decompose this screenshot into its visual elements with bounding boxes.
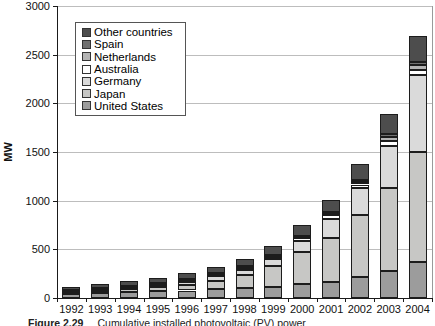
- legend-label: Other countries: [94, 26, 173, 38]
- bar-1997-germany: [207, 276, 225, 280]
- bar-2003-netherlands: [380, 137, 398, 141]
- legend: Other countriesSpainNetherlandsAustralia…: [75, 22, 186, 116]
- legend-item-germany: Germany: [82, 75, 173, 87]
- legend-item-netherlands: Netherlands: [82, 51, 173, 63]
- bar-1999-united-states: [264, 287, 282, 298]
- bar-2001-germany: [322, 219, 340, 238]
- y-tick-label: 0: [0, 292, 50, 304]
- bar-1998-spain: [236, 266, 254, 268]
- bar-2003-australia: [380, 141, 398, 145]
- x-tick: [172, 299, 173, 302]
- bar-1993-other-countries: [91, 284, 109, 288]
- bar-2001-other-countries: [322, 200, 340, 212]
- legend-item-united-states: United States: [82, 100, 173, 112]
- y-tick-label: 1000: [0, 195, 50, 207]
- bar-2003-germany: [380, 146, 398, 188]
- legend-swatch-icon: [82, 101, 91, 110]
- bar-1999-germany: [264, 259, 282, 266]
- x-tick: [317, 299, 318, 302]
- bar-2004-germany: [409, 75, 427, 152]
- x-tick: [288, 299, 289, 302]
- bar-1998-other-countries: [236, 259, 254, 266]
- bar-2000-united-states: [293, 284, 311, 298]
- bar-1997-spain: [207, 273, 225, 275]
- bar-2000-germany: [293, 241, 311, 252]
- legend-item-spain: Spain: [82, 38, 173, 50]
- y-axis-title: MW: [2, 137, 14, 167]
- y-axis-line: [57, 6, 58, 298]
- bar-1997-united-states: [207, 289, 225, 298]
- bar-2003-united-states: [380, 271, 398, 298]
- legend-swatch-icon: [82, 77, 91, 86]
- bar-1995-japan: [149, 287, 167, 291]
- bar-1992-spain: [62, 290, 80, 292]
- bar-2002-germany: [351, 188, 369, 215]
- bar-2000-spain: [293, 236, 311, 238]
- bar-1993-spain: [91, 288, 109, 290]
- figure-caption-label: Figure 2.29: [28, 317, 83, 326]
- x-tick: [201, 299, 202, 302]
- x-tick: [57, 299, 58, 302]
- bar-1992-united-states: [62, 294, 80, 298]
- x-tick: [144, 299, 145, 302]
- gridline-500: [57, 249, 432, 250]
- bar-2003-spain: [380, 134, 398, 137]
- bar-2004-netherlands: [409, 65, 427, 70]
- x-tick: [374, 299, 375, 302]
- legend-item-other-countries: Other countries: [82, 26, 173, 38]
- bar-2004-spain: [409, 62, 427, 66]
- gridline-1000: [57, 201, 432, 202]
- legend-label: Australia: [94, 63, 139, 75]
- legend-label: Germany: [94, 75, 141, 87]
- x-axis-line: [57, 298, 433, 299]
- bar-2001-united-states: [322, 282, 340, 298]
- x-tick-label-2004: 2004: [399, 303, 435, 315]
- figure-caption: Figure 2.29Cumulative installed photovol…: [28, 317, 306, 326]
- y-tick-label: 2500: [0, 49, 50, 61]
- bar-1994-spain: [120, 286, 138, 288]
- bar-2002-japan: [351, 215, 369, 277]
- bar-2002-netherlands: [351, 182, 369, 185]
- legend-swatch-icon: [82, 65, 91, 74]
- y-tick-label: 500: [0, 243, 50, 255]
- legend-item-japan: Japan: [82, 87, 173, 99]
- legend-label: Japan: [94, 88, 125, 100]
- bar-1998-japan: [236, 275, 254, 288]
- y-tick-label: 2000: [0, 97, 50, 109]
- bar-1998-germany: [236, 270, 254, 275]
- x-tick: [432, 299, 433, 302]
- bar-2001-australia: [322, 215, 340, 218]
- bar-2003-other-countries: [380, 114, 398, 134]
- bar-1995-spain: [149, 283, 167, 285]
- bar-1996-united-states: [178, 291, 196, 298]
- pv-capacity-chart: 0500100015002000250030001992199319941995…: [0, 0, 435, 326]
- legend-swatch-icon: [82, 89, 91, 98]
- bar-2001-japan: [322, 238, 340, 282]
- x-tick: [259, 299, 260, 302]
- bar-1998-united-states: [236, 288, 254, 298]
- bar-1996-spain: [178, 279, 196, 281]
- bar-2002-spain: [351, 180, 369, 182]
- bar-1997-other-countries: [207, 267, 225, 273]
- bar-1995-other-countries: [149, 278, 167, 284]
- figure-caption-text: Cumulative installed photovoltaic (PV) p…: [97, 317, 305, 326]
- bar-2000-japan: [293, 252, 311, 284]
- bar-1997-japan: [207, 281, 225, 290]
- x-tick: [115, 299, 116, 302]
- bar-2004-united-states: [409, 262, 427, 298]
- legend-item-australia: Australia: [82, 63, 173, 75]
- gridline-1500: [57, 152, 432, 153]
- bar-2004-other-countries: [409, 36, 427, 61]
- bar-2002-united-states: [351, 277, 369, 298]
- plot-right-border: [432, 6, 433, 298]
- legend-swatch-icon: [82, 28, 91, 37]
- bar-1993-united-states: [91, 293, 109, 298]
- bar-2002-australia: [351, 185, 369, 189]
- legend-swatch-icon: [82, 52, 91, 61]
- bar-1999-japan: [264, 266, 282, 286]
- x-tick: [345, 299, 346, 302]
- bar-1994-other-countries: [120, 281, 138, 286]
- bar-2002-other-countries: [351, 164, 369, 180]
- x-tick: [403, 299, 404, 302]
- bar-2001-spain: [322, 212, 340, 214]
